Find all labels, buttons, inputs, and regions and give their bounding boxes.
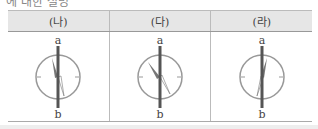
header-ra: (라): [211, 11, 312, 32]
label-a: a: [157, 34, 164, 47]
label-b: b: [55, 108, 62, 121]
label-b: b: [156, 108, 163, 121]
label-a: a: [258, 34, 265, 47]
compass-table: (나) (다) (라) a b a b: [8, 10, 312, 122]
top-text: 에 대한 설명: [6, 0, 69, 9]
compass-figure-na: a b: [28, 32, 88, 121]
header-da: (다): [109, 11, 211, 32]
label-a: a: [55, 34, 62, 47]
needle-north-icon: [148, 62, 160, 79]
bottom-divider: [0, 125, 318, 129]
compass-figure-ra: a b: [232, 32, 292, 121]
header-na: (나): [8, 11, 109, 32]
label-b: b: [258, 108, 265, 121]
cell-ra: a b: [211, 32, 312, 122]
cell-da: a b: [109, 32, 211, 122]
compass-figure-da: a b: [130, 32, 190, 121]
cell-na: a b: [8, 32, 109, 122]
